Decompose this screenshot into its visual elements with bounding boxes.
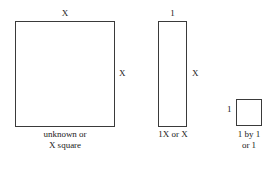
x-strip-top-dimension-label: 1 [158,8,187,19]
x-square-tile [15,21,115,127]
x-square-caption: unknown or X square [5,129,125,151]
unit-square-caption-line-2: or 1 [214,140,276,151]
x-square-right-dimension-label: X [119,68,126,79]
unit-square-left-dimension-label: 1 [227,104,232,115]
x-strip-caption-line-1: 1X or X [140,129,206,140]
unit-square-caption: 1 by 1 or 1 [214,129,276,151]
unit-square-tile [236,99,262,126]
x-square-caption-line-2: X square [5,140,125,151]
unit-square-caption-line-1: 1 by 1 [214,129,276,140]
x-strip-caption: 1X or X [140,129,206,140]
x-strip-right-dimension-label: X [192,68,199,79]
x-strip-tile [158,21,187,127]
x-square-top-dimension-label: X [15,8,115,19]
algebra-tiles-figure: X X unknown or X square 1 X 1X or X 1 1 … [0,0,276,169]
x-square-caption-line-1: unknown or [5,129,125,140]
